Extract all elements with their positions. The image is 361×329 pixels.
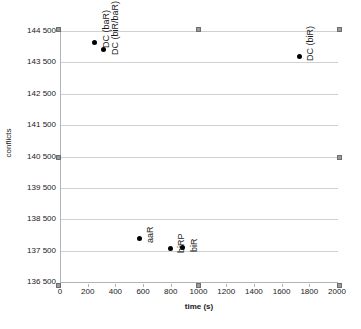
- selection-handle[interactable]: [56, 155, 61, 160]
- x-tick-label: 1600: [273, 288, 291, 296]
- x-tick-label: 0: [58, 288, 62, 296]
- selection-handle[interactable]: [56, 283, 61, 288]
- x-tick-label: 200: [81, 288, 94, 296]
- y-tick-label: 137 500: [4, 247, 56, 255]
- y-tick-label: 138 500: [4, 215, 56, 223]
- x-tick-label: 1000: [190, 288, 208, 296]
- x-tick-label: 1400: [245, 288, 263, 296]
- y-axis-title: conflicts: [5, 115, 13, 171]
- x-tick-mark: [171, 284, 172, 287]
- data-point[interactable]: [297, 54, 302, 59]
- selection-handle[interactable]: [337, 27, 342, 32]
- chart-object[interactable]: 136 500137 500138 500139 500140 500141 5…: [0, 0, 361, 329]
- data-point[interactable]: [137, 236, 142, 241]
- data-point-label: DC (biR/baR): [111, 1, 120, 55]
- y-tick-label: 143 500: [4, 58, 56, 66]
- x-tick-label: 2000: [328, 288, 346, 296]
- data-point[interactable]: [92, 40, 97, 45]
- data-point-label: biRP: [177, 234, 186, 254]
- x-tick-mark: [282, 284, 283, 287]
- x-tick-label: 800: [164, 288, 177, 296]
- selection-handle[interactable]: [196, 283, 201, 288]
- page-bottom-strip: [0, 321, 361, 329]
- data-point-label: biR: [190, 239, 199, 253]
- x-tick-mark: [309, 284, 310, 287]
- selection-handle[interactable]: [337, 283, 342, 288]
- selection-handle[interactable]: [56, 27, 61, 32]
- gridline: [61, 94, 338, 95]
- x-tick-mark: [254, 284, 255, 287]
- plot-area[interactable]: DC (baR)DC (biR/baR)DC (biR)aaRbiRPbiR: [60, 31, 338, 283]
- x-tick-mark: [226, 284, 227, 287]
- x-tick-mark: [115, 284, 116, 287]
- x-tick-mark: [88, 284, 89, 287]
- y-tick-label: 144 500: [4, 27, 56, 35]
- y-tick-label: 139 500: [4, 184, 56, 192]
- gridline: [61, 157, 338, 158]
- data-point[interactable]: [168, 246, 173, 251]
- gridline: [61, 219, 338, 220]
- y-tick-label: 142 500: [4, 90, 56, 98]
- gridline: [61, 188, 338, 189]
- x-tick-label: 400: [109, 288, 122, 296]
- selection-handle[interactable]: [337, 155, 342, 160]
- x-tick-mark: [143, 284, 144, 287]
- x-tick-label: 600: [136, 288, 149, 296]
- x-tick-label: 1200: [217, 288, 235, 296]
- data-point[interactable]: [101, 47, 106, 52]
- y-tick-label: 136 500: [4, 278, 56, 286]
- x-axis-title: time (s): [60, 303, 338, 311]
- gridline: [61, 125, 338, 126]
- gridline: [61, 251, 338, 252]
- data-point-label: DC (biR): [306, 26, 315, 61]
- x-axis-tick-labels: 0200400600800100012001400160018002000: [60, 288, 338, 300]
- x-tick-label: 1800: [300, 288, 318, 296]
- data-point-label: aaR: [146, 227, 155, 244]
- gridline: [61, 62, 338, 63]
- selection-handle[interactable]: [196, 27, 201, 32]
